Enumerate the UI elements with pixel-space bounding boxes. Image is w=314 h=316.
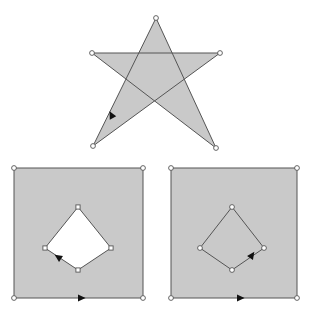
geometry-figure-canvas — [0, 0, 314, 316]
left-square-corner-top-right — [141, 166, 146, 171]
right-diamond-vertex-left — [198, 246, 203, 251]
right-square-corner-top-right — [295, 166, 300, 171]
figure-root — [0, 0, 314, 316]
right-square-corner-bottom-left — [169, 296, 174, 301]
left-hole-vertex-bottom — [76, 268, 80, 272]
right-diamond-vertex-bottom — [230, 268, 235, 273]
star-vertex-top-point — [154, 16, 159, 21]
right-diamond-vertex-right — [262, 246, 267, 251]
left-square-corner-bottom-left — [12, 296, 17, 301]
right-diamond-vertex-top — [230, 205, 235, 210]
left-square-corner-bottom-right — [141, 296, 146, 301]
star-vertex-left-point — [90, 51, 95, 56]
star-vertex-bottom-left-point — [91, 144, 96, 149]
star-shape-group — [90, 16, 223, 151]
star-vertex-right-point — [218, 51, 223, 56]
five-pointed-star-polygon[interactable] — [92, 18, 220, 148]
left-hole-vertex-top — [76, 205, 80, 209]
left-square-group — [12, 166, 146, 302]
left-hole-vertex-right — [109, 246, 113, 250]
right-square-group — [169, 166, 300, 302]
left-square-corner-top-left — [12, 166, 17, 171]
left-square-with-hole-path[interactable] — [14, 168, 143, 298]
right-square-corner-top-left — [169, 166, 174, 171]
left-hole-vertex-left — [43, 246, 47, 250]
right-square-corner-bottom-right — [295, 296, 300, 301]
star-vertex-bottom-right-point — [214, 146, 219, 151]
